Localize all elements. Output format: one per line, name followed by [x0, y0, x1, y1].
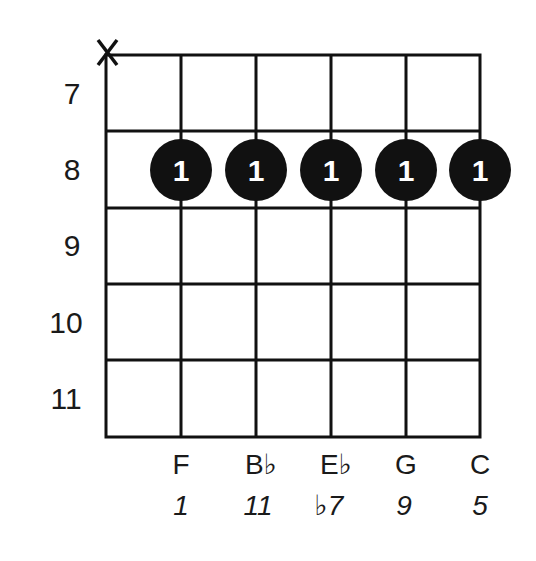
fret-number: 10	[49, 306, 82, 339]
fret-number: 11	[50, 382, 81, 415]
fret-number: 9	[64, 229, 81, 262]
note-label: G	[395, 449, 417, 480]
interval-label: 11	[243, 490, 272, 521]
interval-label: 5	[472, 490, 488, 521]
finger-number: 1	[323, 154, 340, 187]
finger-dot: 1	[375, 139, 437, 201]
fretboard-outline	[106, 55, 480, 437]
interval-label: ♭7	[315, 490, 345, 521]
fret-number: 7	[64, 77, 81, 110]
note-label: C	[470, 449, 490, 480]
note-label: B♭	[245, 449, 277, 480]
fret-number: 8	[64, 153, 81, 186]
finger-dot: 1	[150, 139, 212, 201]
note-label: F	[172, 449, 189, 480]
interval-labels: 1 11 ♭7 9 5	[173, 490, 488, 521]
finger-number: 1	[173, 154, 190, 187]
chord-diagram: 7 8 9 10 11 1 1 1 1 1 F B♭ E♭ G	[0, 0, 536, 561]
finger-dot: 1	[300, 139, 362, 201]
fretboard-grid	[106, 55, 480, 437]
interval-label: 1	[173, 490, 189, 521]
finger-dots: 1 1 1 1 1	[150, 139, 511, 201]
finger-dot: 1	[449, 139, 511, 201]
finger-number: 1	[398, 154, 415, 187]
note-labels: F B♭ E♭ G C	[172, 449, 490, 480]
finger-dot: 1	[225, 139, 287, 201]
finger-number: 1	[472, 154, 489, 187]
finger-number: 1	[248, 154, 265, 187]
interval-label: 9	[396, 490, 412, 521]
note-label: E♭	[320, 449, 352, 480]
fret-numbers: 7 8 9 10 11	[49, 77, 82, 415]
